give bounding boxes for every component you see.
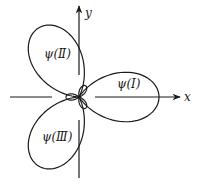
- orbital-diagram: x y ψ(Ⅰ) ψ(Ⅱ) ψ(Ⅲ): [0, 0, 197, 184]
- lobe-label-II: ψ(Ⅱ): [44, 47, 71, 61]
- x-axis-label: x: [184, 90, 191, 104]
- y-axis-label: y: [84, 6, 92, 20]
- lobe-label-III: ψ(Ⅲ): [42, 130, 73, 144]
- lobe-II: [28, 25, 84, 97]
- lobe-label-I: ψ(Ⅰ): [117, 77, 141, 91]
